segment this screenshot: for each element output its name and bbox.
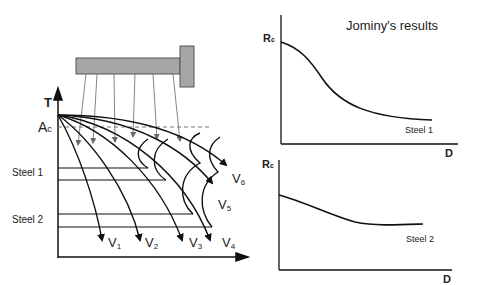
steel2-curve-label: Steel 2 <box>406 234 434 244</box>
label-v6: V6 <box>232 171 246 187</box>
jominy-figure: T Ac Steel 1 Steel 2 V1 V2 V3 V4 V5 V6 <box>0 0 481 285</box>
d-label-top: D <box>445 147 453 159</box>
position-arrows <box>78 74 180 145</box>
steel1-hardness-curve <box>281 42 432 120</box>
label-v2: V2 <box>145 235 159 251</box>
jominy-chart-steel1: Jominy's results Rc D Steel 1 <box>263 15 458 159</box>
label-v5: V5 <box>218 197 232 213</box>
chart-title: Jominy's results <box>346 18 439 33</box>
t-axis-label: T <box>44 95 52 110</box>
cooling-curves <box>58 115 226 240</box>
steel2-hardness-curve <box>279 195 423 225</box>
label-v1: V1 <box>108 235 122 251</box>
ac-label: Ac <box>38 119 52 135</box>
rc-label-top: Rc <box>263 32 275 44</box>
label-v3: V3 <box>189 235 203 251</box>
jominy-chart-steel2: Rc D Steel 2 <box>262 158 452 285</box>
d-label-bottom: D <box>443 273 451 285</box>
label-v4: V4 <box>222 235 236 251</box>
rc-label-bottom: Rc <box>262 158 274 170</box>
steel1-curve-label: Steel 1 <box>405 125 433 135</box>
steel1-label: Steel 1 <box>12 167 44 178</box>
transformation-lines <box>58 168 212 227</box>
steel2-label: Steel 2 <box>12 214 44 225</box>
cooling-curve-v6 <box>58 115 226 165</box>
